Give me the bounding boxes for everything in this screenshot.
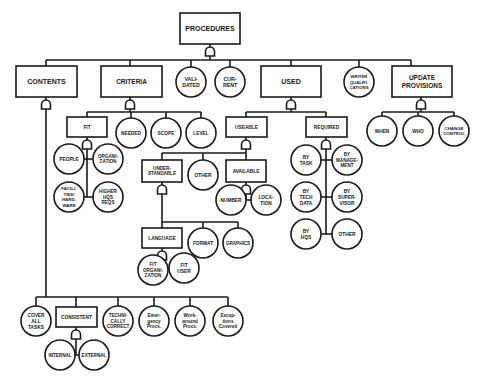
- node-technically-correct[interactable]: TECHNI-CALLYCORRECT: [103, 306, 133, 336]
- node-label: tions: [223, 319, 234, 324]
- node-scope[interactable]: SCOPE: [151, 118, 181, 148]
- node-update-provisions[interactable]: UPDATEPROVISIONS: [392, 66, 452, 97]
- node-organization[interactable]: ORGANI-ZATION: [93, 144, 123, 174]
- node-label: FIT: [83, 125, 90, 130]
- node-cover-all-tasks[interactable]: COVERALLTASKS: [21, 306, 51, 336]
- node-by-supervisor[interactable]: BYSUPER-VISOR: [332, 182, 362, 212]
- and-gate-icon-criteria: [126, 100, 135, 109]
- node-label: INTERNAL: [48, 353, 71, 358]
- node-who[interactable]: WHO: [403, 116, 433, 146]
- node-label: EXTERNAL: [82, 353, 107, 358]
- node-facilities-hardware[interactable]: FACILI-TIES/HARD-WARE: [54, 182, 84, 212]
- node-label: TION: [260, 201, 272, 206]
- node-people[interactable]: PEOPLE: [54, 144, 84, 174]
- node-label: BY: [303, 229, 310, 234]
- node-label: FIT: [150, 262, 157, 267]
- node-label: TASK: [300, 161, 313, 166]
- node-label: ORGANI-: [98, 154, 118, 159]
- node-criteria[interactable]: CRITERIA: [101, 66, 162, 97]
- node-used[interactable]: USED: [261, 66, 321, 97]
- node-format[interactable]: FORMAT: [188, 228, 218, 258]
- node-current[interactable]: CUR-RENT: [215, 67, 245, 97]
- node-label: OTHER: [339, 232, 356, 237]
- node-label: UPDATE: [409, 74, 436, 81]
- node-graphics[interactable]: GRAPHICS: [223, 228, 253, 258]
- node-label: WHO: [412, 129, 424, 134]
- node-number[interactable]: NUMBER: [216, 185, 246, 215]
- node-label: HQS: [301, 235, 312, 240]
- node-label: LOCA-: [258, 195, 274, 200]
- node-when[interactable]: WHEN: [367, 116, 397, 146]
- node-other-required[interactable]: OTHER: [332, 219, 362, 249]
- node-procedures[interactable]: PROCEDURES: [180, 13, 240, 44]
- node-internal[interactable]: INTERNAL: [45, 340, 75, 370]
- node-change-control[interactable]: CHANGECONTROL: [439, 116, 469, 146]
- node-label: USED: [281, 78, 300, 85]
- node-label: VISOR: [340, 201, 355, 206]
- node-label: ORGANI-: [143, 268, 163, 273]
- node-level[interactable]: LEVEL: [186, 118, 216, 148]
- node-label: Covered: [219, 324, 238, 329]
- node-fit-organization[interactable]: FITORGANI-ZATION: [138, 255, 168, 285]
- node-label: REQS: [101, 200, 114, 205]
- node-label: MANAGE-: [336, 158, 358, 163]
- node-label: CONTROL: [443, 131, 465, 136]
- node-validated[interactable]: VALI-DATED: [176, 67, 206, 97]
- node-by-tech-data[interactable]: BYTECHDATA: [291, 182, 321, 212]
- node-by-hqs[interactable]: BYHQS: [291, 219, 321, 249]
- node-available[interactable]: AVAILABLE: [226, 160, 266, 182]
- node-label: DATA: [300, 201, 313, 206]
- node-label: FORMAT: [193, 241, 213, 246]
- node-label: WRITER: [351, 74, 369, 79]
- node-label: BY: [344, 189, 351, 194]
- node-label: WHEN: [375, 129, 390, 134]
- node-understandable[interactable]: UNDER-STANDABLE: [142, 160, 182, 182]
- connector-lines: [36, 13, 454, 355]
- node-label: around: [182, 319, 198, 324]
- node-useable[interactable]: USEABLE: [226, 117, 267, 137]
- procedures-tree-diagram: PROCEDURESCONTENTSCRITERIAVALI-DATEDCUR-…: [0, 0, 488, 385]
- node-workaround-procs[interactable]: Work-aroundProcs.: [175, 306, 205, 336]
- node-label: CALLY: [111, 319, 126, 324]
- node-by-task[interactable]: BYTASK: [291, 145, 321, 175]
- and-gate-icon-update-provisions: [417, 100, 426, 109]
- node-contents[interactable]: CONTENTS: [16, 66, 77, 97]
- node-label: Work-: [184, 313, 197, 318]
- node-label: LANGUAGE: [148, 236, 176, 241]
- node-label: Emer-: [147, 313, 160, 318]
- node-higher-hqs-reqs[interactable]: HIGHERHQSREQS: [93, 182, 123, 212]
- node-label: NUMBER: [220, 198, 242, 203]
- node-other-useable[interactable]: OTHER: [188, 160, 218, 190]
- node-label: PEOPLE: [59, 157, 79, 162]
- node-label: TECHNI-: [109, 313, 128, 318]
- node-label: CUR-: [224, 76, 237, 82]
- node-label: REQUIRED: [314, 125, 340, 130]
- node-label: CHANGE: [444, 126, 463, 131]
- and-gate-icon-understandable: [158, 185, 167, 194]
- node-label: USEABLE: [235, 125, 259, 130]
- node-location[interactable]: LOCA-TION: [251, 185, 281, 215]
- node-label: CRITERIA: [116, 78, 147, 85]
- node-fit-user[interactable]: FITUSER: [169, 253, 199, 283]
- node-label: OTHER: [195, 173, 212, 178]
- node-fit[interactable]: FIT: [67, 117, 107, 137]
- node-label: TECH: [299, 195, 313, 200]
- node-label: CONTENTS: [27, 78, 66, 85]
- node-label: HARD-: [62, 197, 77, 202]
- and-gate-icon-consistent: [72, 330, 81, 339]
- node-language[interactable]: LANGUAGE: [142, 228, 182, 248]
- node-label: WARE: [62, 203, 75, 208]
- node-required[interactable]: REQUIRED: [306, 117, 347, 137]
- node-emergency-procs[interactable]: Emer-gencyProcs.: [139, 306, 169, 336]
- node-label: BY: [344, 152, 350, 157]
- node-label: USER: [177, 269, 191, 274]
- node-by-management[interactable]: BYMANAGE-MENT: [332, 145, 362, 175]
- node-label: HIGHER: [99, 189, 118, 194]
- node-label: gency: [147, 319, 161, 324]
- node-external[interactable]: EXTERNAL: [79, 340, 109, 370]
- node-consistent[interactable]: CONSISTENT: [56, 307, 97, 327]
- node-needed[interactable]: NEEDED: [116, 118, 146, 148]
- node-exceptions-covered[interactable]: Excep-tionsCovered: [213, 306, 243, 336]
- node-label: NEEDED: [121, 131, 142, 136]
- node-writer-qualifications[interactable]: WRITERQUALIFI-CATIONS: [344, 67, 374, 97]
